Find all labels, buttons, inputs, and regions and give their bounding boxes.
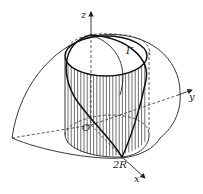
radius-label: 2R xyxy=(112,159,127,170)
meridian-curve xyxy=(91,35,123,95)
origin-label: O xyxy=(82,122,90,133)
sphere-outline-arc xyxy=(12,34,180,138)
y-axis-label: y xyxy=(188,91,195,102)
y-axis-hidden xyxy=(91,95,178,125)
sphere-base-line xyxy=(12,125,91,138)
viviani-diagram: z y x O Γ 2R xyxy=(0,0,203,194)
curve-label: Γ xyxy=(125,45,134,56)
x-axis-label: x xyxy=(134,173,140,184)
z-axis-label: z xyxy=(80,9,87,20)
sphere-bottom-arc xyxy=(12,138,160,158)
